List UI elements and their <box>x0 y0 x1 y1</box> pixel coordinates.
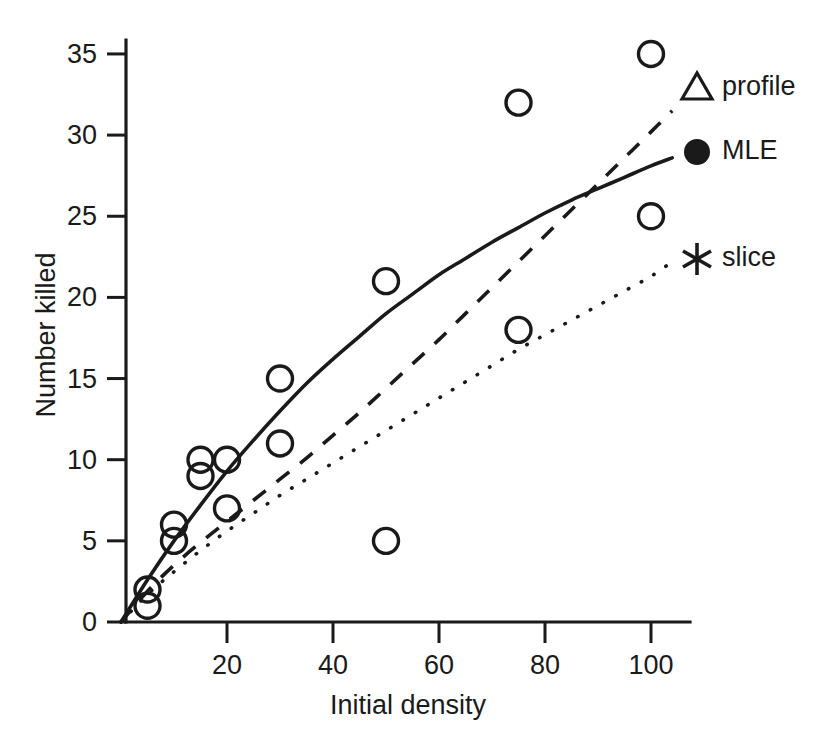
x-axis-ticks: 20406080100 <box>212 622 674 680</box>
scatter-plot-canvas: 05101520253035 20406080100 Initial densi… <box>0 0 816 746</box>
data-point-open-circle <box>215 496 240 521</box>
data-point-open-circle <box>268 431 293 456</box>
data-point-open-circle <box>639 204 664 229</box>
data-point-open-circle <box>374 269 399 294</box>
y-tick-label: 20 <box>67 282 97 312</box>
legend-label-profile: profile <box>722 71 796 101</box>
y-axis-title: Number killed <box>31 252 61 417</box>
data-point-open-circle <box>188 463 213 488</box>
slice-curve <box>121 262 672 622</box>
data-point-open-circle <box>506 317 531 342</box>
x-tick-label: 20 <box>212 650 242 680</box>
filled-circle-icon <box>684 139 710 165</box>
y-tick-label: 10 <box>67 445 97 475</box>
mle-curve <box>121 158 672 622</box>
x-tick-label: 80 <box>530 650 560 680</box>
data-point-open-circle <box>268 366 293 391</box>
y-tick-label: 25 <box>67 201 97 231</box>
x-tick-label: 60 <box>424 650 454 680</box>
legend-label-slice: slice <box>722 242 776 272</box>
data-point-open-circle <box>639 41 664 66</box>
legend-entry-profile: profile <box>682 71 796 101</box>
data-point-open-circle <box>506 90 531 115</box>
legend: profile MLE slice <box>682 71 796 275</box>
y-tick-label: 35 <box>67 39 97 69</box>
y-tick-label: 5 <box>82 526 97 556</box>
y-tick-label: 15 <box>67 364 97 394</box>
x-tick-label: 100 <box>628 650 673 680</box>
x-tick-label: 40 <box>318 650 348 680</box>
y-tick-label: 0 <box>82 607 97 637</box>
data-point-open-circle <box>135 593 160 618</box>
legend-entry-mle: MLE <box>684 135 778 165</box>
y-tick-label: 30 <box>67 120 97 150</box>
legend-entry-slice: slice <box>683 242 776 275</box>
data-point-open-circle <box>374 528 399 553</box>
chart-figure: 05101520253035 20406080100 Initial densi… <box>0 0 816 746</box>
y-axis-ticks: 05101520253035 <box>67 39 126 637</box>
legend-label-mle: MLE <box>722 135 778 165</box>
x-axis-title: Initial density <box>330 690 487 720</box>
open-triangle-icon <box>682 73 712 99</box>
asterisk-icon <box>683 243 711 275</box>
